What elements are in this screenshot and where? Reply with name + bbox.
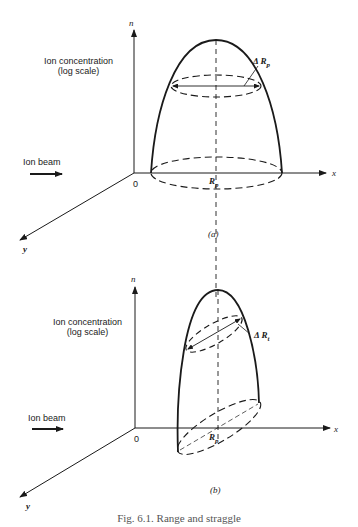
concentration-label-b: Ion concentration (log scale) <box>53 317 122 337</box>
axis-x-label-a: x <box>332 168 336 178</box>
origin-label-a: 0 <box>133 179 138 189</box>
straggle-label-a: Δ Rp <box>253 56 270 70</box>
panel-label-b: (b) <box>210 485 221 495</box>
beam-label-b: Ion beam <box>28 413 66 423</box>
panel-label-a: (a) <box>208 229 219 239</box>
ion-implantation-diagram <box>0 0 358 527</box>
figure-caption: Fig. 6.1. Range and straggle <box>0 512 358 524</box>
straggle-label-b: Δ Rt <box>254 330 269 344</box>
y-axis <box>20 173 134 240</box>
axis-n-label-a: n <box>129 18 134 28</box>
axis-y-label-b: y <box>26 501 30 511</box>
concentration-label-a: Ion concentration (log scale) <box>44 56 113 76</box>
axis-n-label-b: n <box>131 274 136 284</box>
beam-label-a: Ion beam <box>23 157 61 167</box>
range-label-a: Rp <box>209 176 219 190</box>
axis-x-label-b: x <box>334 424 338 434</box>
y-axis <box>20 428 135 497</box>
axis-y-label-a: y <box>23 244 27 254</box>
origin-label-b: 0 <box>134 434 139 444</box>
range-label-b: Rp <box>209 432 219 446</box>
base-ellipse <box>171 390 268 463</box>
